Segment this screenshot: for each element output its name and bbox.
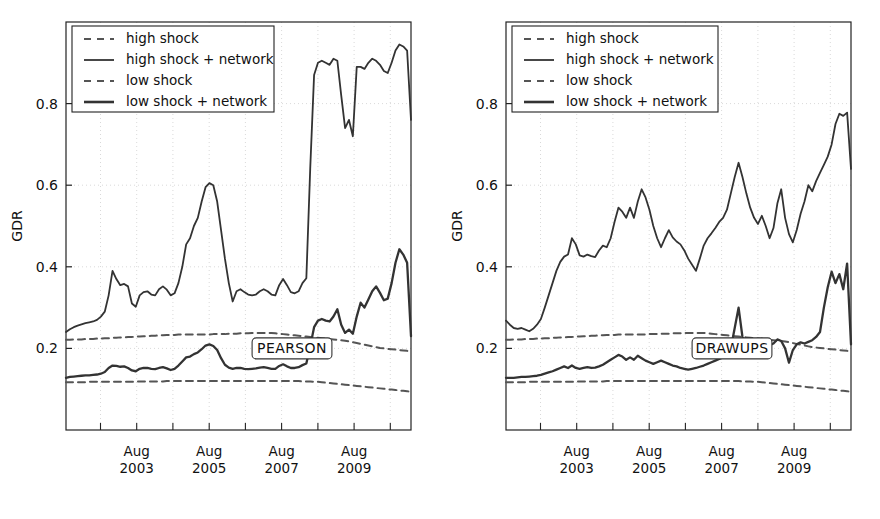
- x-tick-label-month: Aug: [781, 443, 807, 459]
- series-line: [66, 249, 411, 378]
- legend-label: high shock: [566, 30, 639, 46]
- x-tick-label-month: Aug: [268, 443, 294, 459]
- y-tick-label: 0.4: [36, 259, 58, 275]
- x-tick-label-year: 2005: [632, 460, 666, 476]
- series-line: [66, 381, 411, 392]
- legend-label: low shock: [566, 72, 633, 88]
- series-line: [506, 381, 851, 392]
- legend-label: high shock: [126, 30, 199, 46]
- annotation-text: DRAWUPS: [696, 340, 769, 356]
- legend: high shockhigh shock + networklow shockl…: [512, 26, 718, 112]
- x-tick-label-month: Aug: [564, 443, 590, 459]
- series-group: [506, 113, 851, 392]
- y-axis-label: GDR: [449, 210, 465, 242]
- series-line: [506, 113, 851, 332]
- legend-label: low shock: [126, 72, 193, 88]
- legend: high shockhigh shock + networklow shockl…: [72, 26, 274, 112]
- panel-drawups: 0.20.40.60.8GDRAug2003Aug2005Aug2007Aug2…: [440, 0, 880, 519]
- plot-area: 0.20.40.60.8GDRAug2003Aug2005Aug2007Aug2…: [440, 0, 880, 519]
- x-axis: Aug2003Aug2005Aug2007Aug2009: [101, 423, 391, 476]
- x-tick-label-year: 2003: [120, 460, 154, 476]
- x-tick-label-month: Aug: [636, 443, 662, 459]
- x-tick-label-year: 2007: [264, 460, 298, 476]
- legend-label: low shock + network: [126, 93, 267, 109]
- x-tick-label-year: 2003: [560, 460, 594, 476]
- series-line: [506, 264, 851, 378]
- annotation-pearson: PEARSON: [252, 338, 332, 359]
- x-tick-label-year: 2005: [192, 460, 226, 476]
- x-tick-label-month: Aug: [124, 443, 150, 459]
- y-tick-label: 0.8: [476, 96, 498, 112]
- y-tick-label: 0.2: [36, 340, 58, 356]
- plot-area: 0.20.40.60.8GDRAug2003Aug2005Aug2007Aug2…: [0, 0, 440, 519]
- panel-pearson: 0.20.40.60.8GDRAug2003Aug2005Aug2007Aug2…: [0, 0, 440, 519]
- x-tick-label-month: Aug: [341, 443, 367, 459]
- y-tick-label: 0.8: [36, 96, 58, 112]
- y-tick-label: 0.6: [36, 177, 58, 193]
- legend-label: high shock + network: [126, 51, 274, 67]
- figure-two-panel-gdr: 0.20.40.60.8GDRAug2003Aug2005Aug2007Aug2…: [0, 0, 880, 519]
- x-tick-label-month: Aug: [708, 443, 734, 459]
- y-axis-label: GDR: [9, 210, 25, 242]
- x-tick-label-year: 2009: [777, 460, 811, 476]
- y-tick-label: 0.4: [476, 259, 498, 275]
- x-tick-label-year: 2007: [704, 460, 738, 476]
- y-tick-label: 0.2: [476, 340, 498, 356]
- legend-label: high shock + network: [566, 51, 714, 67]
- x-tick-label-year: 2009: [337, 460, 371, 476]
- annotation-drawups: DRAWUPS: [692, 338, 772, 359]
- x-axis: Aug2003Aug2005Aug2007Aug2009: [541, 423, 831, 476]
- y-tick-label: 0.6: [476, 177, 498, 193]
- annotation-text: PEARSON: [257, 340, 327, 356]
- legend-label: low shock + network: [566, 93, 707, 109]
- x-tick-label-month: Aug: [196, 443, 222, 459]
